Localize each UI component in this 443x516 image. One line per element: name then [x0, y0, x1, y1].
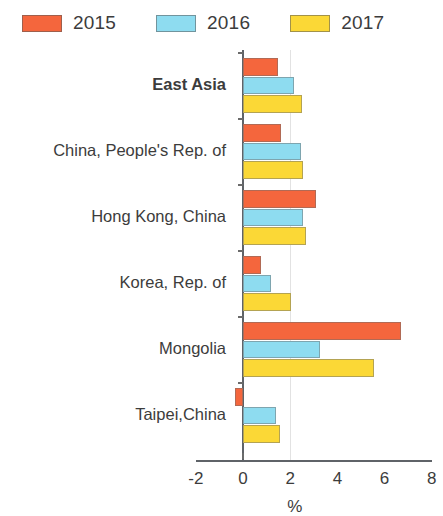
legend-label-2017: 2017	[341, 12, 384, 34]
category-label-hong-kong-china: Hong Kong, China	[2, 208, 234, 225]
bar-chart: East AsiaChina, People's Rep. ofHong Kon…	[0, 46, 443, 506]
legend-swatch-2016	[156, 15, 196, 32]
category-tick	[238, 118, 243, 120]
bar-2016-korea-rep-of	[243, 275, 271, 293]
bar-2016-mongolia	[243, 341, 320, 359]
x-tick-label-1: 0	[238, 470, 247, 487]
bar-2015-taipei-china	[235, 388, 243, 406]
x-tick-label-4: 6	[380, 470, 389, 487]
legend-swatch-2015	[22, 15, 62, 32]
x-tick-label-3: 4	[333, 470, 342, 487]
category-tick	[238, 250, 243, 252]
legend-label-2015: 2015	[73, 12, 116, 34]
bar-2017-korea-rep-of	[243, 293, 291, 311]
x-tick-label-2: 2	[285, 470, 294, 487]
x-tick-0	[242, 453, 243, 459]
x-tick-label-5: 8	[427, 470, 436, 487]
bar-2017-hong-kong-china	[243, 227, 306, 245]
bar-2017-east-asia	[243, 95, 302, 113]
legend-swatch-2017	[290, 15, 330, 32]
category-label-taipei-china: Taipei,China	[2, 406, 234, 423]
category-label-korea-rep-of: Korea, Rep. of	[2, 274, 234, 291]
bar-2015-hong-kong-china	[243, 190, 316, 208]
category-label-east-asia: East Asia	[2, 76, 234, 93]
chart-legend: 2015 2016 2017	[0, 0, 443, 46]
bar-2017-china-people-s-rep-of	[243, 161, 303, 179]
legend-item-2015: 2015	[22, 12, 116, 34]
bar-2015-mongolia	[243, 322, 401, 340]
legend-item-2017: 2017	[290, 12, 384, 34]
bar-2016-hong-kong-china	[243, 209, 303, 227]
category-tick	[238, 184, 243, 186]
x-axis-line	[196, 460, 432, 462]
category-tick	[238, 382, 243, 384]
legend-label-2016: 2016	[207, 12, 250, 34]
x-axis-title: %	[287, 498, 302, 515]
bar-2016-china-people-s-rep-of	[243, 143, 301, 161]
bar-2016-east-asia	[243, 77, 294, 95]
bar-2017-taipei-china	[243, 425, 280, 443]
category-tick	[238, 52, 243, 54]
bar-2017-mongolia	[243, 359, 374, 377]
category-label-china-people-s-rep-of: China, People's Rep. of	[2, 142, 234, 159]
category-tick	[238, 316, 243, 318]
bar-2015-korea-rep-of	[243, 256, 261, 274]
bar-2015-east-asia	[243, 58, 278, 76]
legend-item-2016: 2016	[156, 12, 250, 34]
x-tick-label-0: -2	[188, 470, 203, 487]
plot-area: East AsiaChina, People's Rep. ofHong Kon…	[0, 46, 443, 506]
bar-2016-taipei-china	[243, 407, 276, 425]
category-label-mongolia: Mongolia	[2, 340, 234, 357]
bar-2015-china-people-s-rep-of	[243, 124, 281, 142]
